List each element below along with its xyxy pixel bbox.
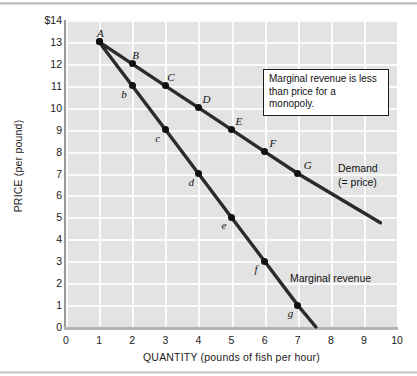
data-point-label: G [304, 159, 312, 171]
data-point-label: d [188, 176, 194, 188]
data-point-label: F [270, 137, 277, 149]
data-point-marker [261, 258, 268, 265]
data-point-label: f [255, 263, 258, 275]
data-point-label: E [236, 115, 243, 127]
data-point-marker [129, 82, 136, 89]
series-label-demand-line1: Demand [338, 162, 378, 176]
data-point-marker [228, 214, 235, 221]
annotation-monopoly-note: Marginal revenue is less than price for … [263, 69, 389, 116]
data-point-label: g [288, 307, 294, 319]
data-point-label: C [167, 71, 174, 83]
series-label-demand: Demand (= price) [338, 162, 378, 189]
data-point-marker [294, 302, 301, 309]
data-point-label: A [97, 27, 104, 39]
figure-economics-demand-marginal-revenue-chart: 012345678910111213$14 012345678910 PRICE… [0, 0, 417, 376]
annotation-line-2: than price for a monopoly. [269, 86, 383, 111]
data-point-marker [162, 126, 169, 133]
series-label-marginal-revenue: Marginal revenue [290, 272, 371, 284]
data-point-label: c [155, 132, 160, 144]
data-point-label: D [202, 93, 210, 105]
data-point-label: e [222, 219, 227, 231]
series-label-demand-line2: (= price) [338, 176, 378, 190]
data-point-label: B [132, 49, 139, 61]
annotation-line-1: Marginal revenue is less [269, 73, 383, 86]
data-point-label: b [121, 88, 127, 100]
data-point-marker [195, 170, 202, 177]
